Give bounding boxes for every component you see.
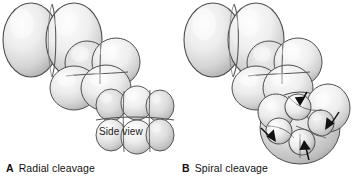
panel-letter-b: B	[182, 162, 190, 174]
panel-caption-b: Spiral cleavage	[195, 162, 268, 174]
spiral-cleavage-illustration	[176, 0, 352, 180]
side-view-label: Side view	[99, 126, 143, 137]
caption-panel-a: ARadial cleavage	[6, 162, 95, 174]
panel-caption-a: Radial cleavage	[19, 162, 95, 174]
stage-eight-cell-spiral	[258, 84, 350, 164]
panel-letter-a: A	[6, 162, 14, 174]
panel-radial-cleavage: Side view ARadial cleavage	[0, 0, 176, 180]
panel-spiral-cleavage: BSpiral cleavage	[176, 0, 352, 180]
stage-eight-cell-radial	[96, 86, 174, 154]
radial-cleavage-illustration	[0, 0, 176, 180]
caption-panel-b: BSpiral cleavage	[182, 162, 268, 174]
figure-root: Side view ARadial cleavage	[0, 0, 352, 180]
